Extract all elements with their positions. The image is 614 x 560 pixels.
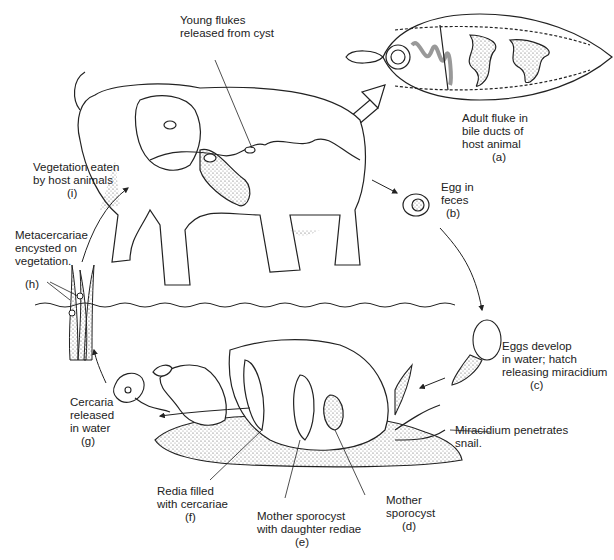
snail-illustration xyxy=(153,340,462,467)
life-cycle-artwork xyxy=(0,0,614,560)
vegetation-illustration xyxy=(69,265,94,360)
label-young-flukes: Young flukes released from cyst xyxy=(180,14,274,40)
label-stage-e: Mother sporocyst with daughter rediae (e… xyxy=(257,510,361,549)
adult-fluke-illustration xyxy=(346,14,612,100)
label-stage-a: Adult fluke in bile ducts of host animal… xyxy=(462,112,562,164)
label-miracidium-penetrates: Miracidium penetrates snail. xyxy=(455,424,568,450)
arrow-egg-to-water xyxy=(440,228,482,310)
label-stage-g: Cercaria released in water (g) xyxy=(70,396,114,448)
label-stage-h: Metacercariae encysted on vegetation. xyxy=(15,229,88,268)
miracidium-illustration xyxy=(395,320,501,415)
egg-illustration xyxy=(403,194,429,216)
label-stage-h-tag: (h) xyxy=(25,278,39,291)
arrow-miracidium-to-snail xyxy=(420,378,445,388)
label-stage-b: Egg in feces (b) xyxy=(441,181,474,220)
label-stage-d: Mother sporocyst (d) xyxy=(386,494,435,533)
label-stage-c: Eggs develop in water; hatch releasing m… xyxy=(502,340,607,392)
arrow-cercaria-to-vegetation xyxy=(94,350,106,383)
label-stage-f: Redia filled with cercariae (f) xyxy=(157,485,228,524)
label-stage-i: Vegetation eaten by host animals (i) xyxy=(33,161,119,200)
water-surface-line xyxy=(35,303,455,307)
arrow-to-egg xyxy=(372,180,397,193)
